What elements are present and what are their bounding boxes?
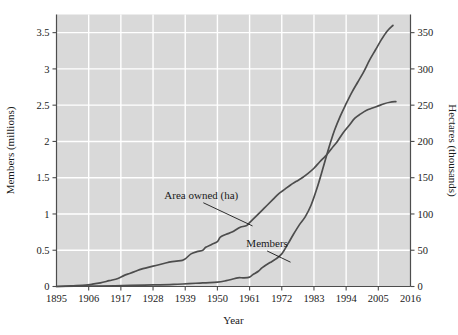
y-left-tick-label: 3 xyxy=(44,64,49,75)
x-tick-label: 1906 xyxy=(78,293,99,304)
y-right-tick-label: 350 xyxy=(418,27,434,38)
x-tick-label: 1950 xyxy=(207,293,228,304)
y-left-tick-label: 2 xyxy=(44,136,49,147)
y-right-axis-title: Hectares (thousands) xyxy=(446,104,458,197)
y-right-tick-label: 0 xyxy=(418,281,423,292)
dual-axis-line-chart: 1895190619171928193919501961197219831994… xyxy=(0,0,458,335)
y-right-tick-label: 300 xyxy=(418,64,434,75)
x-tick-label: 1917 xyxy=(110,293,131,304)
y-left-tick-label: 0.5 xyxy=(36,245,49,256)
y-right-tick-label: 250 xyxy=(418,100,434,111)
y-left-tick-label: 1.5 xyxy=(36,172,49,183)
y-left-tick-label: 1 xyxy=(44,209,49,220)
annotation-label-1: Area owned (ha) xyxy=(164,189,238,202)
y-left-tick-label: 0 xyxy=(44,281,49,292)
chart-figure: 1895190619171928193919501961197219831994… xyxy=(0,0,458,335)
y-left-tick-label: 2.5 xyxy=(36,100,49,111)
x-tick-label: 1939 xyxy=(175,293,196,304)
y-right-tick-label: 150 xyxy=(418,172,434,183)
y-right-tick-label: 50 xyxy=(418,245,429,256)
x-tick-label: 1928 xyxy=(143,293,164,304)
x-tick-label: 2016 xyxy=(400,293,421,304)
y-right-tick-label: 100 xyxy=(418,209,434,220)
x-tick-label: 1994 xyxy=(336,293,358,304)
y-left-axis-title: Members (millions) xyxy=(4,106,17,194)
x-axis-title: Year xyxy=(223,314,244,326)
plot-area-background xyxy=(57,15,411,287)
x-tick-label: 1983 xyxy=(303,293,324,304)
x-tick-label: 1961 xyxy=(239,293,260,304)
x-tick-label: 1895 xyxy=(46,293,67,304)
x-tick-label: 1972 xyxy=(271,293,292,304)
x-tick-label: 2005 xyxy=(368,293,389,304)
y-right-tick-label: 200 xyxy=(418,136,434,147)
annotation-label-2: Members xyxy=(246,237,288,249)
y-left-tick-label: 3.5 xyxy=(36,27,49,38)
